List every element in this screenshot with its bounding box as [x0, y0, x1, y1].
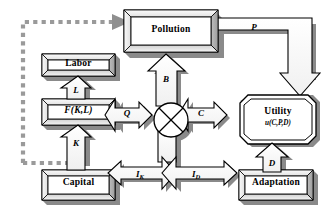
node-labor[interactable]	[42, 54, 115, 76]
node-production[interactable]	[42, 99, 115, 125]
node-capital[interactable]	[42, 170, 115, 200]
flow-P-shape	[215, 18, 320, 96]
node-splitter[interactable]	[154, 103, 188, 137]
diagram-graphics	[0, 0, 327, 222]
flow-ID-shape	[162, 157, 237, 189]
diagram-canvas: Pollution Labor F(K,L) Capital Adaptatio…	[0, 0, 327, 222]
node-utility[interactable]	[240, 95, 316, 144]
node-pollution[interactable]	[124, 10, 218, 52]
node-adaptation[interactable]	[239, 170, 313, 200]
